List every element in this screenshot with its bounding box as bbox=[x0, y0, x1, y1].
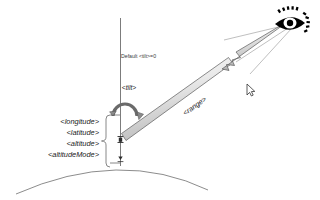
range-label: <range> bbox=[181, 95, 208, 118]
altitude-label: <altitude> bbox=[67, 139, 100, 148]
origin-marker bbox=[119, 138, 122, 142]
tilt-rotation-arrow-icon bbox=[110, 104, 144, 120]
range-arrow-icon bbox=[122, 20, 291, 141]
altitude-mode-label: <altitudeMode> bbox=[48, 150, 100, 159]
axis-ground-arrow bbox=[118, 156, 122, 160]
diagram-canvas: Default <tilt>=0 <tilt> <range> <longitu… bbox=[0, 0, 320, 200]
diagram-root: Default <tilt>=0 <tilt> <range> <longitu… bbox=[0, 0, 320, 200]
label-group-brace bbox=[102, 115, 111, 167]
latitude-label: <latitude> bbox=[67, 128, 100, 137]
tilt-label: <tilt> bbox=[122, 84, 136, 91]
eye-icon bbox=[275, 6, 310, 33]
default-tilt-label: Default <tilt>=0 bbox=[121, 53, 156, 59]
mouse-cursor-icon bbox=[247, 84, 255, 96]
eye-rays bbox=[224, 24, 292, 74]
earth-surface-arc bbox=[16, 170, 208, 194]
longitude-label: <longitude> bbox=[60, 117, 99, 126]
